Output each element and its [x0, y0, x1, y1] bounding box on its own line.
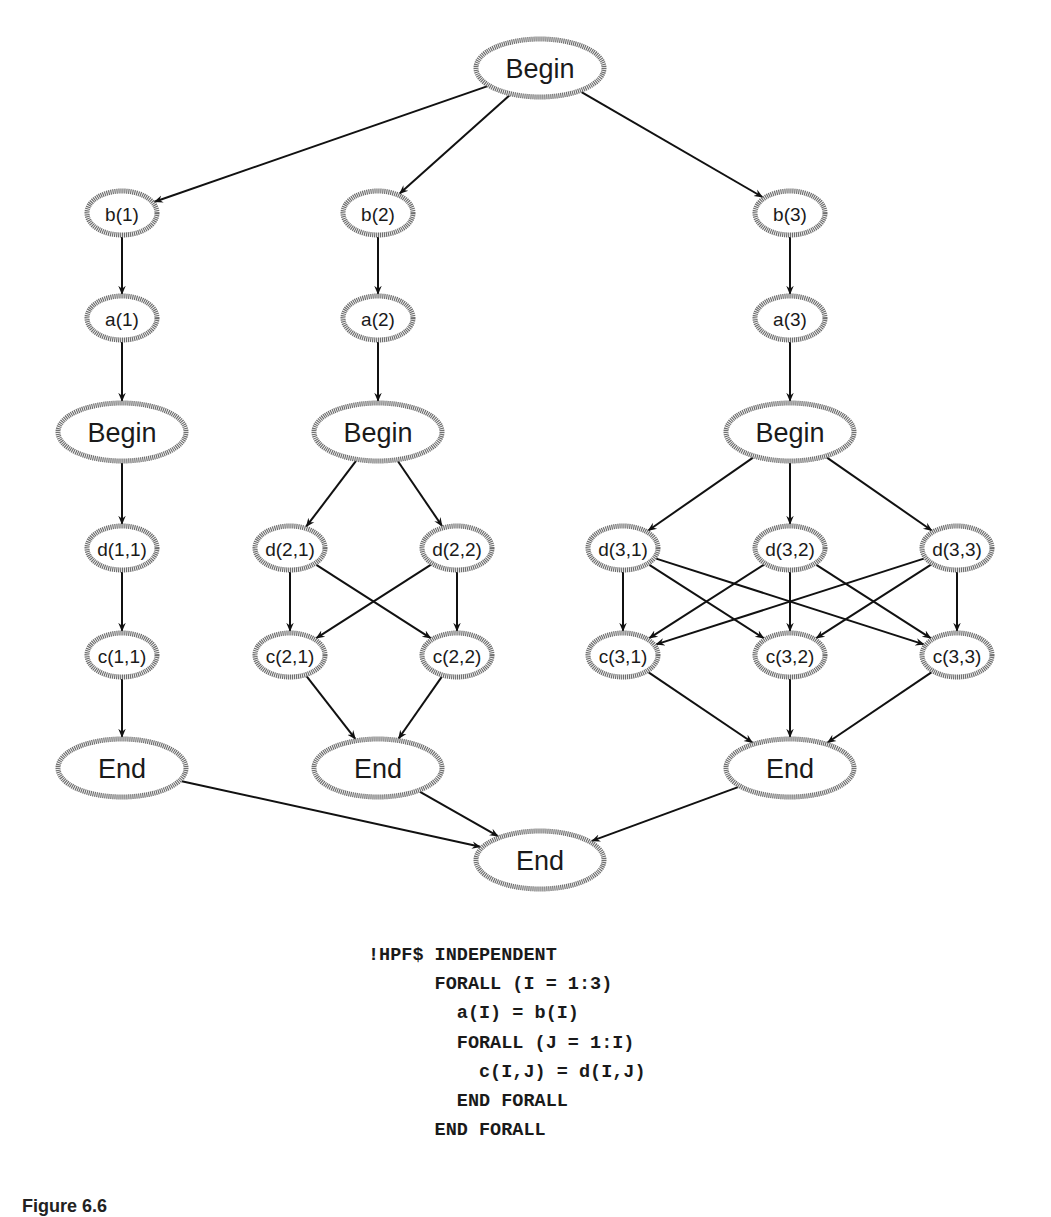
hpf-code-listing: !HPF$ INDEPENDENT FORALL (I = 1:3) a(I) … [368, 941, 646, 1145]
nodes-layer: Beginb(1)b(2)b(3)a(1)a(2)a(3)BeginBeginB… [58, 39, 992, 889]
edge-begin2-to-d21 [306, 461, 356, 526]
code-line: !HPF$ INDEPENDENT [368, 941, 646, 970]
node-label: b(3) [773, 204, 807, 225]
edges-layer [122, 86, 957, 846]
node-label: c(2,2) [433, 646, 482, 667]
edge-c33-to-end3 [828, 672, 932, 742]
node-label: a(1) [105, 309, 139, 330]
node-end2: End [314, 739, 442, 797]
node-a1: a(1) [87, 296, 157, 340]
figure-caption: Figure 6.6 [22, 1196, 107, 1217]
node-d33: d(3,3) [922, 526, 992, 570]
edge-c22-to-end2 [399, 677, 442, 739]
node-begin3: Begin [726, 403, 854, 461]
code-line: c(I,J) = d(I,J) [368, 1058, 646, 1087]
node-end3: End [726, 739, 854, 797]
node-label: a(3) [773, 309, 807, 330]
node-d32: d(3,2) [755, 526, 825, 570]
code-line: END FORALL [368, 1116, 646, 1145]
node-d31: d(3,1) [588, 526, 658, 570]
code-line: FORALL (I = 1:3) [368, 970, 646, 999]
code-line: a(I) = b(I) [368, 999, 646, 1028]
node-label: d(3,2) [765, 539, 815, 560]
node-label: c(3,2) [766, 646, 815, 667]
edge-end3-to-root-end [592, 787, 738, 841]
edge-root-begin-to-b3 [582, 92, 763, 197]
node-c11: c(1,1) [87, 633, 157, 677]
node-label: End [98, 754, 146, 784]
node-d22: d(2,2) [422, 526, 492, 570]
node-label: Begin [343, 418, 412, 448]
node-label: c(3,3) [933, 646, 982, 667]
node-label: End [354, 754, 402, 784]
node-label: c(3,1) [599, 646, 648, 667]
task-dependency-graph: Beginb(1)b(2)b(3)a(1)a(2)a(3)BeginBeginB… [0, 0, 1051, 940]
node-b3: b(3) [755, 191, 825, 235]
node-label: a(2) [361, 309, 395, 330]
node-c31: c(3,1) [588, 633, 658, 677]
node-a3: a(3) [755, 296, 825, 340]
edge-end2-to-root-end [420, 792, 498, 836]
node-c22: c(2,2) [422, 633, 492, 677]
edge-begin3-to-d33 [827, 458, 932, 531]
node-label: d(2,2) [432, 539, 482, 560]
node-label: End [766, 754, 814, 784]
node-d11: d(1,1) [87, 526, 157, 570]
edge-root-begin-to-b1 [155, 86, 487, 201]
node-label: Begin [87, 418, 156, 448]
node-label: End [516, 846, 564, 876]
node-label: d(2,1) [265, 539, 315, 560]
node-root-begin: Begin [476, 39, 604, 97]
edge-c31-to-end3 [649, 672, 753, 742]
node-begin2: Begin [314, 403, 442, 461]
node-d21: d(2,1) [255, 526, 325, 570]
node-label: d(1,1) [97, 539, 147, 560]
node-label: d(3,1) [598, 539, 648, 560]
node-label: c(1,1) [98, 646, 147, 667]
edge-end1-to-root-end [182, 781, 480, 847]
edge-begin2-to-d22 [398, 462, 442, 527]
node-begin1: Begin [58, 403, 186, 461]
node-label: Begin [755, 418, 824, 448]
node-a2: a(2) [343, 296, 413, 340]
code-line: FORALL (J = 1:I) [368, 1029, 646, 1058]
node-c33: c(3,3) [922, 633, 992, 677]
node-root-end: End [476, 831, 604, 889]
node-label: Begin [505, 54, 574, 84]
node-label: d(3,3) [932, 539, 982, 560]
code-line: END FORALL [368, 1087, 646, 1116]
node-c21: c(2,1) [255, 633, 325, 677]
node-b2: b(2) [343, 191, 413, 235]
node-label: b(1) [105, 204, 139, 225]
node-b1: b(1) [87, 191, 157, 235]
node-label: b(2) [361, 204, 395, 225]
edge-begin3-to-d31 [648, 458, 753, 531]
node-end1: End [58, 739, 186, 797]
node-label: c(2,1) [266, 646, 315, 667]
edge-c21-to-end2 [307, 676, 356, 738]
node-c32: c(3,2) [755, 633, 825, 677]
